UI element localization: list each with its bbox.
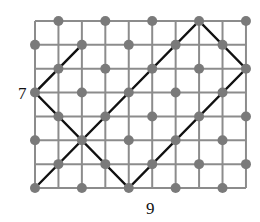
grid-dot bbox=[194, 159, 204, 169]
grid-dot bbox=[171, 40, 181, 50]
grid-dot bbox=[241, 111, 251, 121]
grid-dot bbox=[171, 135, 181, 145]
grid-dot bbox=[100, 16, 110, 26]
grid-dot bbox=[30, 183, 40, 193]
grid-dot bbox=[30, 135, 40, 145]
grid-dot bbox=[147, 159, 157, 169]
grid-dot bbox=[171, 88, 181, 98]
grid-dot bbox=[218, 88, 228, 98]
grid-dot bbox=[77, 40, 87, 50]
height-label: 7 bbox=[18, 84, 27, 103]
grid-dot bbox=[147, 111, 157, 121]
grid-dot bbox=[147, 16, 157, 26]
grid-lines bbox=[35, 21, 246, 188]
path-polyline bbox=[35, 21, 246, 188]
grid-dot bbox=[241, 159, 251, 169]
grid-diagram: 7 9 bbox=[0, 0, 260, 222]
grid-dot bbox=[218, 40, 228, 50]
grid-dot bbox=[124, 40, 134, 50]
grid-dot bbox=[147, 64, 157, 74]
width-label: 9 bbox=[146, 199, 155, 218]
grid-dot bbox=[100, 111, 110, 121]
grid-dot bbox=[100, 64, 110, 74]
grid-dot bbox=[241, 64, 251, 74]
grid-dot bbox=[77, 183, 87, 193]
grid-dot bbox=[53, 64, 63, 74]
grid-dot bbox=[77, 135, 87, 145]
grid-dot bbox=[218, 183, 228, 193]
grid-dot bbox=[77, 88, 87, 98]
grid-dot bbox=[100, 159, 110, 169]
grid-dot bbox=[30, 88, 40, 98]
grid-dot bbox=[194, 64, 204, 74]
grid-dot bbox=[53, 159, 63, 169]
grid-dot bbox=[124, 135, 134, 145]
grid-dot bbox=[124, 183, 134, 193]
grid-dot bbox=[30, 40, 40, 50]
grid-dot bbox=[53, 16, 63, 26]
grid-dot bbox=[194, 16, 204, 26]
grid-dot bbox=[124, 88, 134, 98]
diagonal-path bbox=[35, 21, 246, 188]
grid-dot bbox=[53, 111, 63, 121]
grid-dot bbox=[218, 135, 228, 145]
grid-dot bbox=[241, 16, 251, 26]
grid-dots bbox=[30, 16, 251, 193]
grid-dot bbox=[194, 111, 204, 121]
grid-dot bbox=[171, 183, 181, 193]
